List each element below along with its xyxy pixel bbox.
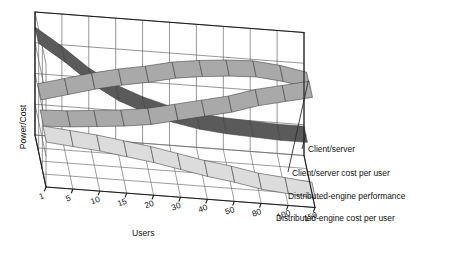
y-axis-title: Power/Cost [18,104,28,149]
ribbon-segment [199,60,229,77]
ribbon-segment [250,121,280,140]
chart-canvas: 1510152030405080100150 Power/Cost Users … [0,0,450,262]
x-axis-title: Users [132,228,154,238]
ribbon-segment [277,124,307,142]
ribbon-segment [94,110,124,127]
legend-label-2: Client/server cost per user [292,168,390,178]
ribbon-segment [67,110,97,127]
legend-label-1: Client/server [308,144,355,154]
ribbon-segment [226,60,256,77]
legend-label-3: Distributed-engine performance [288,191,406,201]
ribbon-segment [118,66,148,85]
chart-3d-ribbon-plot: 1510152030405080100150 Power/Cost Users … [0,0,450,262]
ribbon-segment [121,108,151,126]
ribbon-segment [40,110,70,127]
legend-label-4: Distributed-engine cost per user [276,213,395,223]
ribbon-segment [223,118,253,137]
ribbon-segment [172,60,202,78]
